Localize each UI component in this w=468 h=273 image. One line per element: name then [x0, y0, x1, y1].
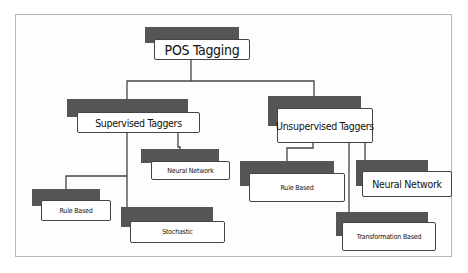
node-label: Transformation Based	[357, 233, 421, 241]
node-unsup-neural-network: Neural Network	[362, 171, 452, 197]
node-label: Unsupervised Taggers	[276, 120, 374, 132]
node-label: Supervised Taggers	[95, 117, 182, 129]
node-sup-stochastic: Stochastic	[130, 221, 225, 243]
connector-supervised-rule	[66, 176, 127, 189]
connector-supervised-neural	[178, 133, 180, 149]
node-unsupervised-taggers: Unsupervised Taggers	[277, 108, 373, 143]
node-label: Rule Based	[59, 207, 92, 215]
connector-root-supervised	[127, 60, 191, 99]
connector-unsupervised-rule	[287, 143, 313, 161]
node-label: Rule Based	[280, 184, 313, 192]
node-sup-neural-network: Neural Network	[151, 161, 230, 180]
node-supervised-taggers: Supervised Taggers	[77, 112, 200, 133]
node-label: Neural Network	[167, 167, 213, 175]
node-pos-tagging: POS Tagging	[154, 39, 250, 60]
node-label: Stochastic	[162, 228, 193, 236]
node-label: POS Tagging	[165, 42, 240, 58]
node-unsup-rule-based: Rule Based	[249, 173, 345, 202]
node-sup-rule-based: Rule Based	[41, 200, 111, 221]
node-label: Neural Network	[372, 178, 441, 190]
connector-root-unsupervised	[191, 81, 314, 96]
node-unsup-transformation-based: Transformation Based	[342, 222, 436, 251]
